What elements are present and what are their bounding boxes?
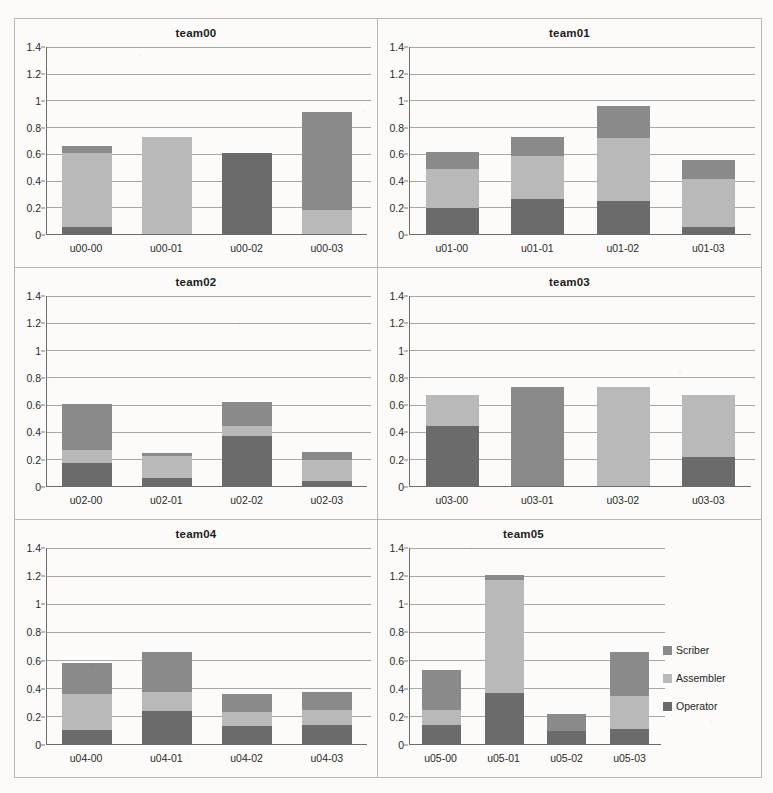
bar-segment-operator[interactable]	[222, 436, 272, 486]
gridline	[47, 486, 371, 487]
bar-segment-operator[interactable]	[547, 731, 586, 744]
bar-group	[410, 548, 661, 744]
bar-group	[47, 296, 367, 486]
stacked-bar-u00-02[interactable]	[222, 111, 272, 234]
legend-item-operator[interactable]: Operator	[663, 700, 755, 712]
bar-segment-assembler[interactable]	[426, 169, 479, 208]
stacked-bar-u05-03[interactable]	[610, 610, 649, 744]
bar-segment-operator[interactable]	[485, 693, 524, 744]
bar-segment-operator[interactable]	[426, 426, 479, 486]
bar-segment-assembler[interactable]	[597, 387, 650, 486]
bar-segment-scriber[interactable]	[610, 652, 649, 696]
bar-segment-scriber[interactable]	[142, 652, 192, 692]
x-tick-label: u00-00	[46, 237, 126, 259]
bar-segment-operator[interactable]	[222, 153, 272, 234]
bar-segment-operator[interactable]	[62, 227, 112, 234]
bar-segment-assembler[interactable]	[426, 395, 479, 426]
bar-segment-assembler[interactable]	[142, 137, 192, 234]
legend-item-scriber[interactable]: Scriber	[663, 644, 755, 656]
y-tick-mark	[41, 181, 45, 182]
bar-segment-assembler[interactable]	[485, 580, 524, 693]
bar-segment-operator[interactable]	[142, 711, 192, 744]
stacked-bar-u03-01[interactable]	[511, 349, 564, 486]
bar-segment-assembler[interactable]	[62, 694, 112, 730]
stacked-bar-u01-00[interactable]	[426, 110, 479, 234]
stacked-bar-u04-00[interactable]	[62, 618, 112, 744]
bar-segment-assembler[interactable]	[142, 456, 192, 478]
stacked-bar-u04-03[interactable]	[302, 643, 352, 744]
bar-segment-operator[interactable]	[426, 208, 479, 234]
bar-segment-assembler[interactable]	[610, 696, 649, 729]
bar-segment-assembler[interactable]	[222, 426, 272, 437]
bar-segment-assembler[interactable]	[222, 712, 272, 725]
bar-segment-scriber[interactable]	[511, 387, 564, 486]
bar-segment-assembler[interactable]	[511, 156, 564, 199]
bar-segment-operator[interactable]	[222, 726, 272, 744]
bar-segment-scriber[interactable]	[422, 670, 461, 710]
bar-segment-scriber[interactable]	[222, 694, 272, 712]
legend-item-assembler[interactable]: Assembler	[663, 672, 755, 684]
bar-group	[47, 548, 367, 744]
stacked-bar-u05-01[interactable]	[485, 562, 524, 744]
bar-segment-operator[interactable]	[62, 463, 112, 486]
stacked-bar-u02-01[interactable]	[142, 407, 192, 486]
bar-segment-operator[interactable]	[302, 725, 352, 744]
stacked-bar-u03-00[interactable]	[426, 354, 479, 486]
bar-segment-assembler[interactable]	[302, 710, 352, 724]
bar-segment-operator[interactable]	[142, 478, 192, 486]
bar-segment-scriber[interactable]	[547, 714, 586, 732]
stacked-bar-u02-00[interactable]	[62, 361, 112, 486]
bar-segment-scriber[interactable]	[302, 452, 352, 459]
bar-segment-operator[interactable]	[682, 227, 735, 234]
bar-segment-scriber[interactable]	[62, 404, 112, 450]
x-axis: u03-00u03-01u03-02u03-03	[409, 489, 751, 511]
stacked-bar-u00-01[interactable]	[142, 99, 192, 234]
bar-slot	[287, 296, 367, 486]
stacked-bar-u01-03[interactable]	[682, 116, 735, 234]
stacked-bar-u05-02[interactable]	[547, 667, 586, 744]
bar-segment-scriber[interactable]	[222, 402, 272, 425]
bar-segment-scriber[interactable]	[682, 160, 735, 179]
stacked-bar-u05-00[interactable]	[422, 624, 461, 744]
stacked-bar-u03-02[interactable]	[597, 349, 650, 486]
bar-segment-operator[interactable]	[62, 730, 112, 744]
bar-segment-scriber[interactable]	[302, 692, 352, 710]
bar-segment-scriber[interactable]	[511, 137, 564, 156]
y-tick-mark	[41, 154, 45, 155]
y-tick-mark	[41, 432, 45, 433]
bar-segment-operator[interactable]	[597, 201, 650, 234]
bar-segment-assembler[interactable]	[682, 179, 735, 227]
bar-segment-scriber[interactable]	[597, 106, 650, 138]
bar-segment-operator[interactable]	[682, 457, 735, 486]
y-tick-label: 1.2	[389, 317, 404, 329]
bar-segment-assembler[interactable]	[62, 153, 112, 227]
bar-segment-assembler[interactable]	[142, 692, 192, 711]
bar-segment-operator[interactable]	[610, 729, 649, 744]
bar-segment-scriber[interactable]	[62, 663, 112, 694]
stacked-bar-u02-02[interactable]	[222, 360, 272, 486]
legend-label: Scriber	[676, 644, 709, 656]
bar-segment-assembler[interactable]	[302, 210, 352, 234]
stacked-bar-u01-02[interactable]	[597, 79, 650, 234]
stacked-bar-u00-03[interactable]	[302, 83, 352, 234]
bar-segment-assembler[interactable]	[682, 395, 735, 457]
bar-segment-assembler[interactable]	[302, 460, 352, 482]
y-tick-label: 0.6	[26, 148, 41, 160]
bar-segment-assembler[interactable]	[422, 710, 461, 725]
bar-segment-scriber[interactable]	[302, 112, 352, 210]
x-axis: u00-00u00-01u00-02u00-03	[46, 237, 367, 259]
bar-segment-operator[interactable]	[302, 481, 352, 486]
stacked-bar-u03-03[interactable]	[682, 354, 735, 486]
stacked-bar-u01-01[interactable]	[511, 99, 564, 234]
x-tick-label: u02-01	[126, 489, 206, 511]
stacked-bar-u02-03[interactable]	[302, 406, 352, 486]
bar-segment-scriber[interactable]	[426, 152, 479, 170]
bar-segment-operator[interactable]	[511, 199, 564, 234]
bar-segment-operator[interactable]	[422, 725, 461, 744]
bar-segment-assembler[interactable]	[62, 450, 112, 462]
stacked-bar-u04-01[interactable]	[142, 610, 192, 744]
stacked-bar-u00-00[interactable]	[62, 106, 112, 234]
y-tick-mark	[404, 688, 408, 689]
stacked-bar-u04-02[interactable]	[222, 645, 272, 744]
bar-segment-assembler[interactable]	[597, 138, 650, 201]
